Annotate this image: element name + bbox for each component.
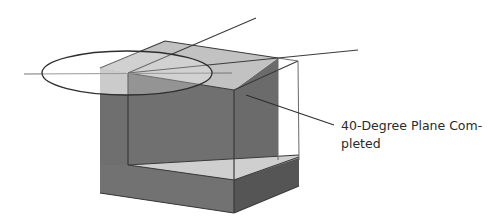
callout-line-2: pleted xyxy=(341,135,490,153)
callout-label: 40-Degree Plane Com- pleted xyxy=(341,117,490,153)
cube-construction-drawing xyxy=(0,0,490,223)
callout-line-1: 40-Degree Plane Com- xyxy=(341,117,490,135)
diagram-canvas: 40-Degree Plane Com- pleted xyxy=(0,0,490,223)
rotation-ellipse xyxy=(42,51,212,95)
